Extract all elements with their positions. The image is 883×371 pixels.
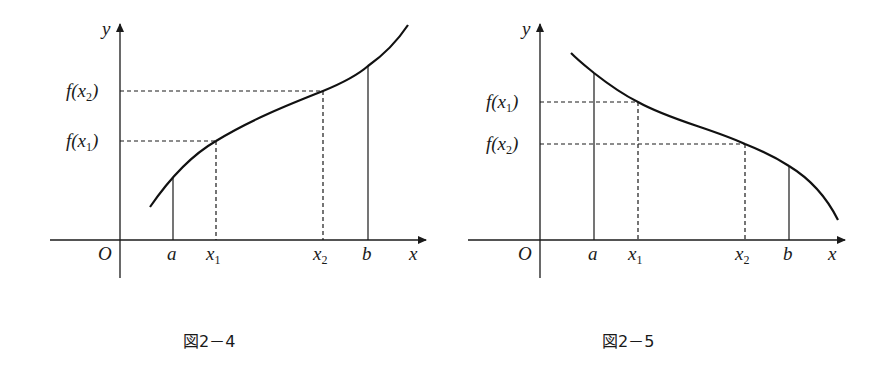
tick-label-a: a [167, 243, 177, 264]
tick-label-a: a [588, 243, 598, 264]
tick-label-b: b [783, 243, 793, 264]
x-axis-label: x [827, 243, 837, 264]
tick-label-fx1: f(x1) [486, 91, 518, 115]
figure-2-4: y x O a x1 x2 b f(x2) f(x1) 図2－4 [50, 18, 426, 351]
origin-label: O [98, 243, 112, 264]
tick-label-x1: x1 [627, 243, 642, 267]
increasing-curve [150, 25, 408, 207]
figure-2-5: y x O a x1 x2 b f(x1) f(x2) 図2－5 [468, 18, 845, 351]
tick-label-x2: x2 [312, 243, 327, 267]
y-axis-label: y [100, 18, 111, 39]
figure-caption: 図2－4 [183, 332, 235, 351]
tick-label-x1: x1 [205, 243, 220, 267]
tick-label-b: b [362, 243, 372, 264]
decreasing-curve [571, 53, 838, 220]
tick-label-x2: x2 [734, 243, 749, 267]
figure-caption: 図2－5 [602, 332, 654, 351]
origin-label: O [518, 243, 532, 264]
tick-label-fx2: f(x2) [66, 80, 98, 104]
tick-label-fx2: f(x2) [486, 133, 518, 157]
x-axis-label: x [408, 243, 418, 264]
tick-label-fx1: f(x1) [66, 130, 98, 154]
y-axis-label: y [520, 18, 531, 39]
